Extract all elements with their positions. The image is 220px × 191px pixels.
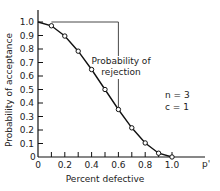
x-tick-label: 0	[35, 160, 41, 170]
rejection-label-2: rejection	[101, 67, 140, 77]
y-tick-label: 0.5	[20, 85, 34, 95]
data-point	[63, 34, 67, 38]
n-annotation: n = 3	[165, 90, 190, 100]
rejection-label-1: Probability of	[91, 56, 151, 66]
x-tick-label: 0.2	[58, 160, 72, 170]
y-tick-label: 0.2	[20, 125, 34, 135]
y-tick-label: 0.3	[20, 112, 34, 122]
y-tick-label: 0.6	[20, 71, 35, 81]
data-point	[49, 24, 53, 28]
p-prime-label: p'	[202, 159, 210, 169]
x-tick-label: 1.0	[165, 160, 180, 170]
x-tick-label: 0.6	[111, 160, 126, 170]
y-axis-label: Probability of acceptance	[4, 33, 14, 147]
y-tick-label: 0.9	[20, 31, 35, 41]
data-point	[76, 49, 80, 53]
data-point	[89, 67, 93, 71]
y-tick-label: 0.4	[20, 98, 35, 108]
axes	[38, 10, 205, 157]
c-annotation: c = 1	[165, 102, 189, 112]
y-tick-label: 0.7	[20, 58, 34, 68]
data-point	[130, 126, 134, 130]
data-point	[156, 151, 160, 155]
data-point	[116, 107, 120, 111]
data-point	[143, 141, 147, 145]
x-tick-label: 0.8	[138, 160, 153, 170]
oc-curve-chart: 0.10.20.30.40.50.60.70.80.91.0 00.20.40.…	[0, 0, 220, 191]
origin-label: 0	[30, 152, 36, 162]
y-tick-label: 0.8	[20, 44, 35, 54]
x-tick-label: 0.4	[84, 160, 99, 170]
x-axis-label: Percent defective	[66, 174, 145, 184]
y-ticks: 0.10.20.30.40.50.60.70.80.91.0	[20, 17, 43, 149]
data-point	[170, 155, 174, 159]
y-tick-label: 0.1	[20, 139, 34, 149]
y-tick-label: 1.0	[20, 17, 35, 27]
data-point	[103, 87, 107, 91]
data-points	[49, 24, 174, 160]
